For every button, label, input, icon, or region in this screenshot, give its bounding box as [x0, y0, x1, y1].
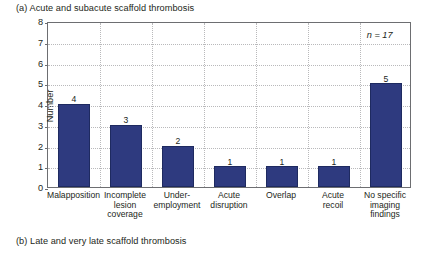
y-axis-tick-label: 8 — [38, 18, 43, 27]
y-axis-tick-mark — [45, 23, 48, 24]
x-axis-tick-label-line: recoil — [307, 201, 359, 211]
bar[interactable]: 2 — [162, 146, 194, 188]
bar-value-label: 5 — [384, 75, 389, 84]
x-gridline — [360, 23, 361, 187]
bar-value-label: 1 — [228, 158, 233, 167]
y-axis-tick-label: 4 — [38, 101, 43, 110]
x-axis-tick-label: Malapposition — [47, 191, 99, 201]
y-axis-tick-mark — [45, 106, 48, 107]
y-axis-tick-mark — [45, 85, 48, 86]
x-axis-tick-label: No specificimagingfindings — [359, 191, 411, 220]
y-axis-tick-label: 7 — [38, 39, 43, 48]
figure-caption-a: (a) Acute and subacute scaffold thrombos… — [16, 3, 194, 13]
x-gridline — [152, 23, 153, 187]
y-axis-tick-mark — [45, 127, 48, 128]
y-axis-tick-label: 1 — [38, 164, 43, 173]
y-gridline — [48, 44, 410, 45]
bar-value-label: 4 — [72, 95, 77, 104]
x-gridline — [308, 23, 309, 187]
bar[interactable]: 3 — [110, 125, 142, 187]
x-axis-tick-label: Incompletelesioncoverage — [99, 191, 151, 220]
bar[interactable]: 5 — [370, 83, 402, 187]
y-gridline — [48, 148, 410, 149]
y-gridline — [48, 127, 410, 128]
y-axis-tick-label: 0 — [38, 184, 43, 193]
x-axis-tick-label-line: Overlap — [255, 191, 307, 201]
bar[interactable]: 4 — [58, 104, 90, 187]
y-axis-tick-mark — [45, 168, 48, 169]
y-gridline — [48, 85, 410, 86]
bar-chart-plot-area: Number 0123456784321115n = 17 — [47, 22, 411, 188]
x-gridline — [100, 23, 101, 187]
x-axis-tick-label: Acutedisruption — [203, 191, 255, 210]
y-axis-tick-mark — [45, 44, 48, 45]
x-axis-tick-label: Under-employment — [151, 191, 203, 210]
y-axis-tick-label: 6 — [38, 60, 43, 69]
figure-root: (a) Acute and subacute scaffold thrombos… — [0, 0, 427, 255]
sample-size-annotation: n = 17 — [367, 30, 393, 40]
y-axis-tick-mark — [45, 65, 48, 66]
x-axis-tick-label-line: employment — [151, 201, 203, 211]
x-gridline — [204, 23, 205, 187]
bar-value-label: 3 — [124, 116, 129, 125]
bar[interactable]: 1 — [214, 166, 246, 187]
bar[interactable]: 1 — [266, 166, 298, 187]
x-axis-tick-label-line: findings — [359, 210, 411, 220]
y-gridline — [48, 106, 410, 107]
y-gridline — [48, 65, 410, 66]
x-axis-tick-label-line: coverage — [99, 210, 151, 220]
x-axis-tick-label: Overlap — [255, 191, 307, 201]
figure-caption-b: (b) Late and very late scaffold thrombos… — [16, 236, 186, 246]
y-axis-tick-label: 3 — [38, 122, 43, 131]
bar-value-label: 2 — [176, 137, 181, 146]
x-gridline — [256, 23, 257, 187]
x-axis-tick-label-line: disruption — [203, 201, 255, 211]
y-axis-tick-mark — [45, 148, 48, 149]
x-axis-tick-label-line: Malapposition — [47, 191, 99, 201]
x-axis-tick-label: Acuterecoil — [307, 191, 359, 210]
bar[interactable]: 1 — [318, 166, 350, 187]
y-axis-tick-label: 2 — [38, 143, 43, 152]
bar-value-label: 1 — [332, 158, 337, 167]
y-axis-tick-label: 5 — [38, 81, 43, 90]
bar-value-label: 1 — [280, 158, 285, 167]
